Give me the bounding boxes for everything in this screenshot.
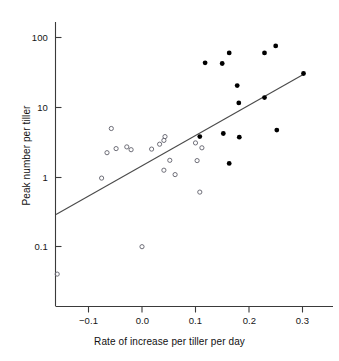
data-point-open: [158, 142, 162, 146]
data-point-filled: [236, 101, 241, 106]
data-point-open: [100, 176, 104, 180]
x-tick-label--0.1: −0.1: [68, 315, 109, 326]
data-point-filled: [221, 131, 226, 136]
x-axis-ticks: [89, 307, 303, 313]
data-point-open: [193, 141, 197, 145]
data-point-filled: [227, 51, 232, 56]
data-point-open: [200, 146, 204, 150]
data-point-open: [105, 151, 109, 155]
data-point-filled: [301, 71, 306, 76]
data-point-filled: [197, 134, 202, 139]
regression-line: [56, 74, 305, 215]
data-point-open: [195, 159, 199, 163]
data-point-open: [198, 190, 202, 194]
data-point-open: [150, 147, 154, 151]
y-tick-label-0.1: 0.1: [10, 241, 48, 252]
y-axis-ticks: [56, 38, 62, 247]
axes: [56, 22, 334, 307]
data-point-filled: [262, 51, 267, 56]
data-point-filled: [262, 95, 267, 100]
data-point-open: [129, 148, 133, 152]
data-point-filled: [274, 128, 279, 133]
data-point-open: [173, 173, 177, 177]
x-tick-label-0.0: 0.0: [122, 315, 163, 326]
open-circle-points: [55, 126, 204, 276]
data-point-open: [162, 168, 166, 172]
x-axis-title: Rate of increase per tiller per day: [0, 336, 339, 347]
plot-canvas: [0, 0, 339, 361]
x-tick-label-0.3: 0.3: [282, 315, 323, 326]
data-point-open: [109, 126, 113, 130]
x-tick-label-0.1: 0.1: [175, 315, 216, 326]
scatter-plot-figure: 100 10 1 0.1 −0.1 0.0 0.1 0.2 0.3 Peak n…: [0, 0, 339, 361]
data-point-open: [168, 158, 172, 162]
x-tick-label-0.2: 0.2: [229, 315, 270, 326]
data-point-filled: [237, 135, 242, 140]
y-axis-title: Peak number per tiller: [21, 86, 32, 226]
data-point-filled: [227, 161, 232, 166]
data-point-filled: [273, 44, 278, 49]
filled-circle-points: [197, 44, 305, 166]
data-point-filled: [203, 60, 208, 65]
data-point-open: [125, 145, 129, 149]
y-tick-label-100: 100: [10, 32, 48, 43]
data-point-filled: [235, 83, 240, 88]
data-point-filled: [220, 61, 225, 66]
data-point-open: [140, 245, 144, 249]
data-point-open: [114, 147, 118, 151]
